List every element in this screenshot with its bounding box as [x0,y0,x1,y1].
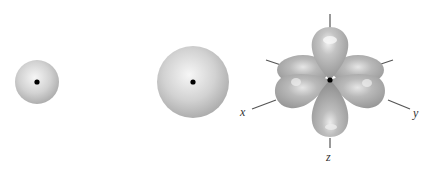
highlight [291,78,301,86]
highlight [325,124,337,130]
orbital-diagram: x y z [0,0,431,169]
nucleus-dot [327,77,332,82]
nucleus-dot [190,79,195,84]
nucleus-dot [34,79,39,84]
axis-y-front [388,100,410,109]
axis-label-x: x [239,105,246,119]
orbital-d: x y z [239,14,419,164]
highlight [323,36,337,44]
axis-label-z: z [325,150,331,164]
highlight [362,79,372,87]
orbital-2s [157,46,229,118]
orbital-1s [15,60,59,104]
axis-label-y: y [412,106,419,120]
axis-x-front [252,100,276,109]
